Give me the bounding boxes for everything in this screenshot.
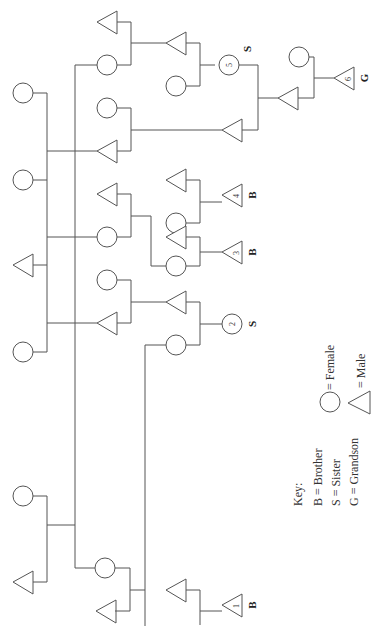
female-symbol [95,558,115,578]
female-symbol [97,227,117,247]
female-symbol [166,335,186,355]
tag-sister-5: S [241,46,253,52]
female-symbol [289,47,309,67]
tag-brother-4: B [246,191,258,199]
male-symbol [166,291,186,314]
number-3: 3 [232,251,241,255]
legend-female-icon [320,392,340,412]
tag-grandson-6: G [358,73,370,82]
male-symbol [166,579,186,602]
female-symbol [13,342,33,362]
male-symbol [222,119,242,142]
tag-brother-3: B [246,248,258,256]
grandson-branch: 6 G [222,47,370,142]
male-symbol [278,87,298,110]
pedigree-svg: 5 S 4 B 3 B 2 S 1 B 6 [0,0,378,626]
male-symbol [97,312,117,335]
male-symbol [13,571,33,594]
tag-sister-2: S [246,321,258,327]
male-symbol [97,11,117,34]
legend: Key: B = Brother S = Sister G = Grandson… [291,345,370,506]
female-symbol [97,55,117,75]
generation-2 [95,11,117,623]
legend-title: Key: [291,483,305,506]
male-symbol [166,32,186,55]
legend-entry-sister: S = Sister [329,459,343,506]
male-symbol [166,169,186,192]
generation-1 [13,83,33,594]
legend-male-icon [348,391,370,414]
female-symbol [13,170,33,190]
female-symbol [13,83,33,103]
male-symbol [13,254,33,277]
number-1: 1 [232,604,241,608]
legend-male-label: = Male [354,354,368,388]
legend-female-label: = Female [323,345,337,390]
number-4: 4 [232,194,241,198]
female-symbol [166,76,186,96]
number-2: 2 [228,322,237,326]
tag-brother-1: B [246,601,258,609]
number-6: 6 [344,77,353,81]
female-symbol [97,270,117,290]
generation-3 [166,32,186,602]
connectors-gen1 [33,65,97,582]
male-symbol [97,140,117,163]
male-symbol [97,183,117,206]
female-symbol [97,98,117,118]
female-symbol [13,486,33,506]
number-5: 5 [225,63,234,67]
legend-entry-brother: B = Brother [311,449,325,506]
pedigree-diagram: 5 S 4 B 3 B 2 S 1 B 6 [0,0,378,626]
legend-entry-grandson: G = Grandson [347,438,361,506]
male-symbol [96,600,116,623]
female-symbol [166,256,186,276]
